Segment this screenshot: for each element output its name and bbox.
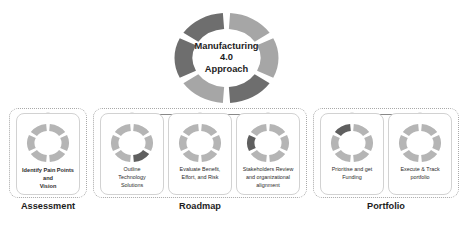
group-label-assessment: Assessment xyxy=(9,201,87,211)
step-card-stakeholders-review[interactable]: Stakeholders Review and organizational a… xyxy=(236,113,300,195)
group-label-portfolio: Portfolio xyxy=(313,201,459,211)
card-ring-icon-outline-technology xyxy=(109,123,155,163)
step-card-outline-technology[interactable]: Outline Technology Solutions xyxy=(100,113,164,195)
card-ring-segment-0 xyxy=(353,124,369,136)
card-ring-segment-5 xyxy=(115,124,131,136)
card-ring-segment-5 xyxy=(403,124,419,136)
card-ring-segment-4 xyxy=(247,135,256,151)
card-ring-segment-0 xyxy=(421,124,437,136)
step-card-execute-track[interactable]: Execute & Track portfolio xyxy=(388,113,452,195)
card-ring-segment-2 xyxy=(49,150,65,162)
card-ring-segment-5 xyxy=(31,124,47,136)
hub-ring-icon xyxy=(167,10,286,106)
card-ring-segment-4 xyxy=(399,135,408,151)
card-ring-segment-1 xyxy=(364,135,373,151)
card-ring-segment-2 xyxy=(269,150,285,162)
hub-segment-3 xyxy=(183,74,224,103)
card-ring-segment-3 xyxy=(115,150,131,162)
step-card-label-identify-pain-points: Identify Pain Points and Vision xyxy=(20,166,76,190)
card-ring-segment-2 xyxy=(421,150,437,162)
card-ring-segment-2 xyxy=(133,150,149,162)
step-card-identify-pain-points[interactable]: Identify Pain Points and Vision xyxy=(16,113,80,195)
card-ring-segment-3 xyxy=(183,150,199,162)
step-card-label-evaluate-benefit: Evaluate Benefit, Effort, and Risk xyxy=(172,166,228,182)
card-ring-segment-0 xyxy=(269,124,285,136)
card-ring-segment-3 xyxy=(251,150,267,162)
group-label-roadmap: Roadmap xyxy=(93,201,307,211)
hub-segment-2 xyxy=(229,74,270,103)
step-card-evaluate-benefit[interactable]: Evaluate Benefit, Effort, and Risk xyxy=(168,113,232,195)
hub-segment-0 xyxy=(229,13,270,42)
card-ring-segment-1 xyxy=(212,135,221,151)
card-ring-icon-stakeholders-review xyxy=(245,123,291,163)
card-ring-segment-2 xyxy=(353,150,369,162)
card-ring-segment-5 xyxy=(251,124,267,136)
hub-segment-5 xyxy=(183,13,224,42)
card-ring-segment-4 xyxy=(179,135,188,151)
card-ring-segment-4 xyxy=(27,135,36,151)
card-ring-icon-prioritise-funding xyxy=(329,123,375,163)
card-ring-segment-5 xyxy=(183,124,199,136)
card-ring-icon-execute-track xyxy=(397,123,443,163)
card-ring-segment-0 xyxy=(49,124,65,136)
step-card-label-execute-track: Execute & Track portfolio xyxy=(392,166,448,182)
central-hub: Manufacturing 4.0 Approach xyxy=(167,10,286,106)
step-card-label-stakeholders-review: Stakeholders Review and organizational a… xyxy=(240,166,296,189)
card-ring-segment-1 xyxy=(432,135,441,151)
card-ring-icon-identify-pain-points xyxy=(25,123,71,163)
card-ring-segment-0 xyxy=(133,124,149,136)
card-ring-icon-evaluate-benefit xyxy=(177,123,223,163)
card-ring-segment-5 xyxy=(335,124,351,136)
hub-segment-4 xyxy=(175,38,196,77)
card-ring-segment-4 xyxy=(111,135,120,151)
step-card-prioritise-funding[interactable]: Prioritise and get Funding xyxy=(320,113,384,195)
card-ring-segment-1 xyxy=(144,135,153,151)
card-ring-segment-3 xyxy=(31,150,47,162)
hub-segment-1 xyxy=(257,38,278,77)
card-ring-segment-0 xyxy=(201,124,217,136)
card-ring-segment-1 xyxy=(280,135,289,151)
card-ring-segment-2 xyxy=(201,150,217,162)
card-ring-segment-3 xyxy=(335,150,351,162)
card-ring-segment-4 xyxy=(331,135,340,151)
card-ring-segment-1 xyxy=(60,135,69,151)
card-ring-segment-3 xyxy=(403,150,419,162)
step-card-label-outline-technology: Outline Technology Solutions xyxy=(104,166,160,189)
step-card-label-prioritise-funding: Prioritise and get Funding xyxy=(324,166,380,182)
